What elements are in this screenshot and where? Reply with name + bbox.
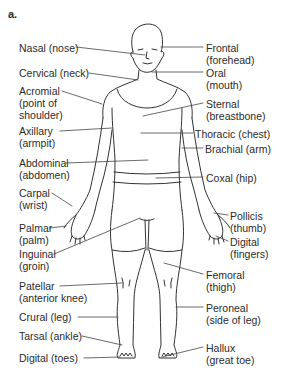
label-axillary: Axillary (armpit) xyxy=(19,125,55,149)
label-crural: Crural (leg) xyxy=(19,311,72,323)
label-sternal: Sternal (breastbone) xyxy=(206,98,266,122)
label-carpal: Carpal (wrist) xyxy=(19,187,50,211)
label-inguinal: Inguinal (groin) xyxy=(19,248,56,272)
head-outline xyxy=(131,24,164,72)
label-cervical: Cervical (neck) xyxy=(19,67,89,79)
label-tarsal: Tarsal (ankle) xyxy=(19,330,82,342)
label-digital-toes: Digital (toes) xyxy=(19,352,78,364)
label-patellar: Patellar (anterior knee) xyxy=(19,280,87,304)
label-acromial: Acromial (point of shoulder) xyxy=(19,85,63,121)
label-frontal: Frontal (forehead) xyxy=(206,42,254,66)
label-peroneal: Peroneal (side of leg) xyxy=(206,302,261,326)
label-palmar: Palmar (palm) xyxy=(19,222,52,246)
label-thoracic: Thoracic (chest) xyxy=(195,128,270,140)
label-pollicis: Pollicis (thumb) xyxy=(230,210,266,234)
label-coxal: Coxal (hip) xyxy=(206,172,257,184)
label-nasal: Nasal (nose) xyxy=(19,42,79,54)
label-abdominal: Abdominal (abdomen) xyxy=(19,157,70,181)
label-brachial: Brachial (arm) xyxy=(205,143,271,155)
label-digital-fingers: Digital (fingers) xyxy=(230,236,269,260)
label-hallux: Hallux (great toe) xyxy=(206,342,254,366)
label-femoral: Femoral (thigh) xyxy=(206,269,245,293)
label-oral: Oral (mouth) xyxy=(206,67,242,91)
